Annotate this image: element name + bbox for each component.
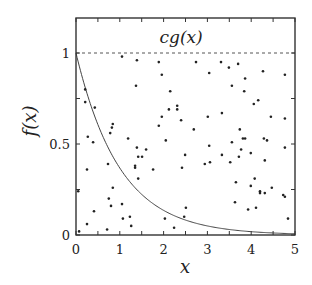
sample-point xyxy=(263,137,266,140)
sample-point xyxy=(127,137,130,140)
sample-point xyxy=(244,77,247,80)
sample-point xyxy=(86,223,89,226)
sample-point xyxy=(253,177,256,180)
sample-point xyxy=(87,135,90,138)
sample-point xyxy=(161,115,164,118)
x-axis-label: x xyxy=(180,256,190,277)
sample-point xyxy=(112,123,115,126)
sample-point xyxy=(231,85,234,88)
sample-point xyxy=(84,88,87,91)
sample-point xyxy=(231,141,234,144)
sample-point xyxy=(158,125,161,128)
sample-point xyxy=(130,225,133,228)
sample-point xyxy=(135,85,138,88)
sample-point xyxy=(264,192,267,195)
y-tick-label: 0.5 xyxy=(49,137,70,152)
sample-point xyxy=(284,74,287,77)
sample-point xyxy=(264,159,267,162)
sample-point xyxy=(109,132,112,135)
sample-point xyxy=(176,108,179,111)
sample-point xyxy=(137,177,140,180)
sample-point xyxy=(106,228,109,231)
sample-point xyxy=(287,217,290,220)
chart-root: 012345 00.51 x f(x) cg(x) xyxy=(0,0,312,285)
sample-point xyxy=(108,197,111,200)
sample-point xyxy=(220,61,223,64)
x-tick-label: 3 xyxy=(203,242,211,257)
sample-point xyxy=(238,155,241,158)
sample-point xyxy=(193,128,196,131)
sample-point xyxy=(204,163,207,166)
sample-point xyxy=(229,161,232,164)
sample-point xyxy=(110,205,113,208)
x-axis: 012345 xyxy=(72,18,299,257)
sample-point xyxy=(266,139,269,142)
sample-point xyxy=(250,152,253,155)
sample-point xyxy=(237,63,240,66)
sample-point xyxy=(112,186,115,189)
plot-area xyxy=(76,18,295,235)
sample-point xyxy=(141,155,144,158)
y-tick-label: 1 xyxy=(62,46,70,61)
sample-point xyxy=(136,59,139,62)
sample-point xyxy=(209,161,212,164)
sample-point xyxy=(173,226,176,229)
sample-point xyxy=(262,70,265,73)
sample-point xyxy=(92,141,95,144)
sample-point xyxy=(134,166,137,169)
sample-point xyxy=(195,61,198,64)
sample-point xyxy=(259,192,262,195)
sample-point xyxy=(158,61,161,64)
y-axis: 00.51 xyxy=(49,46,295,243)
sample-point xyxy=(234,201,237,204)
sample-point xyxy=(184,154,187,157)
sample-point xyxy=(111,126,114,129)
sample-point xyxy=(221,154,224,157)
sample-point xyxy=(235,181,238,184)
sample-point xyxy=(250,185,253,188)
sample-point xyxy=(180,119,183,122)
sample-point xyxy=(93,210,96,213)
sample-point xyxy=(84,101,87,104)
sample-point xyxy=(86,168,89,171)
sample-point xyxy=(183,216,186,219)
sample-point xyxy=(122,217,125,220)
x-tick-label: 2 xyxy=(159,242,167,257)
y-tick-label: 0 xyxy=(62,228,70,243)
sample-point xyxy=(137,155,140,158)
sample-point xyxy=(181,166,184,169)
sample-point xyxy=(77,190,80,193)
sample-point xyxy=(271,186,274,189)
sample-point xyxy=(121,203,124,206)
sample-point xyxy=(107,163,110,166)
sample-point xyxy=(169,90,172,93)
sample-point xyxy=(168,108,171,111)
sample-point xyxy=(239,128,242,131)
sample-point xyxy=(270,115,273,118)
x-tick-label: 5 xyxy=(291,242,299,257)
sample-point xyxy=(244,137,247,140)
sample-point xyxy=(257,99,260,102)
sample-point xyxy=(94,106,97,109)
x-tick-label: 1 xyxy=(116,242,124,257)
sample-point xyxy=(78,230,81,233)
sample-point xyxy=(161,74,164,77)
sample-point xyxy=(152,168,155,171)
x-tick-label: 4 xyxy=(247,242,255,257)
sample-point xyxy=(228,66,231,69)
sample-point xyxy=(176,105,179,108)
sample-point xyxy=(129,216,132,219)
sample-point xyxy=(221,112,224,115)
sample-point xyxy=(164,217,167,220)
sample-point xyxy=(255,206,258,209)
sample-point xyxy=(284,146,287,149)
sample-point xyxy=(253,103,256,106)
sample-point xyxy=(208,145,211,148)
plot-frame xyxy=(76,18,295,235)
sample-point xyxy=(284,117,287,120)
envelope-label: cg(x) xyxy=(159,27,202,47)
x-tick-label: 0 xyxy=(72,242,80,257)
sample-point xyxy=(145,148,148,151)
sample-point xyxy=(121,55,124,58)
sample-point xyxy=(165,139,168,142)
